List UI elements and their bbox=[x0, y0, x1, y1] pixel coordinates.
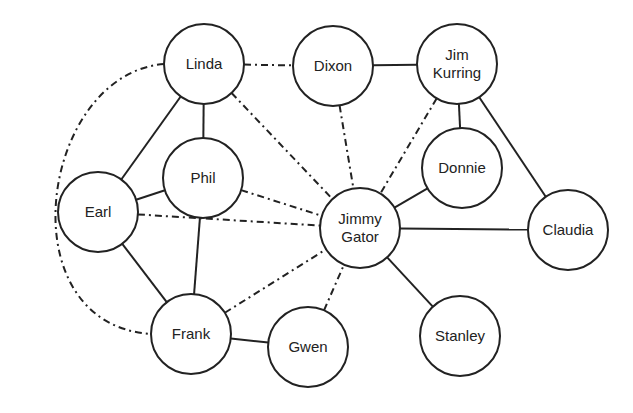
edge-donnie-jimmy bbox=[394, 188, 427, 207]
node-jim: JimKurring bbox=[417, 24, 497, 104]
edge-earl-jimmy bbox=[138, 214, 320, 225]
node-label: Claudia bbox=[543, 221, 595, 238]
edge-dixon-jimmy bbox=[340, 105, 354, 188]
node-label: Linda bbox=[186, 55, 223, 72]
edge-dixon-jim bbox=[373, 65, 417, 66]
node-label: Dixon bbox=[314, 57, 352, 74]
edge-frank-jimmy bbox=[225, 249, 326, 312]
node-jimmy: JimmyGator bbox=[320, 188, 400, 268]
node-label: Donnie bbox=[438, 159, 486, 176]
node-gwen: Gwen bbox=[268, 307, 348, 387]
node-label: Frank bbox=[172, 325, 211, 342]
node-claudia: Claudia bbox=[528, 190, 608, 270]
node-label: Jim bbox=[445, 46, 468, 63]
edge-earl-frank bbox=[122, 244, 167, 302]
edge-phil-jimmy bbox=[241, 190, 322, 216]
node-donnie: Donnie bbox=[422, 128, 502, 208]
node-dixon: Dixon bbox=[293, 26, 373, 106]
edge-earl-phil bbox=[136, 190, 165, 199]
edge-jimmy-claudia bbox=[400, 228, 528, 229]
node-label: Gwen bbox=[288, 338, 327, 355]
edge-linda-dixon bbox=[244, 65, 293, 66]
edge-jimmy-stanley bbox=[387, 257, 433, 306]
edge-linda-jimmy bbox=[232, 93, 333, 199]
edge-jim-donnie bbox=[459, 104, 460, 128]
edge-gwen-jimmy bbox=[324, 265, 344, 311]
node-label: Earl bbox=[85, 203, 112, 220]
node-earl: Earl bbox=[58, 172, 138, 252]
node-stanley: Stanley bbox=[420, 296, 500, 376]
node-label: Stanley bbox=[435, 327, 486, 344]
node-label: Jimmy bbox=[338, 210, 382, 227]
node-phil: Phil bbox=[163, 138, 243, 218]
node-frank: Frank bbox=[151, 294, 231, 374]
node-label: Phil bbox=[190, 169, 215, 186]
node-label: Gator bbox=[341, 228, 379, 245]
edge-phil-frank bbox=[194, 218, 200, 294]
graph-canvas: LindaDixonJimKurringPhilEarlDonnieJimmyG… bbox=[0, 0, 633, 413]
node-label: Kurring bbox=[433, 64, 481, 81]
network-diagram: LindaDixonJimKurringPhilEarlDonnieJimmyG… bbox=[0, 0, 633, 413]
edge-frank-gwen bbox=[231, 338, 268, 342]
node-linda: Linda bbox=[164, 24, 244, 104]
